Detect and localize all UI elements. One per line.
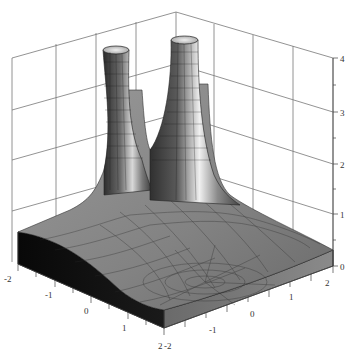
left-tick-label: -1 — [45, 290, 53, 300]
left-tick-label: 1 — [122, 323, 127, 333]
right-tick-label: 1 — [289, 292, 294, 302]
right-tick-label: -2 — [164, 341, 172, 351]
right-tick-label: -1 — [209, 325, 217, 335]
z-tick-label: 1 — [340, 210, 345, 220]
left-tick-label: -2 — [4, 274, 12, 284]
left-tick-label: 0 — [84, 306, 89, 316]
right-tick-label: 2 — [325, 278, 330, 288]
z-tick-label: 3 — [340, 108, 345, 118]
right-tick-label: 0 — [250, 309, 255, 319]
peak-right — [150, 36, 240, 205]
z-tick-label: 0 — [340, 262, 345, 272]
left-tick-label: 2 — [158, 341, 163, 351]
surface-plot: -2 -1 0 1 2 -2 -1 0 1 2 0 1 2 3 4 — [0, 0, 352, 360]
z-axis-ticks — [333, 58, 338, 266]
z-tick-label: 4 — [340, 54, 345, 64]
z-tick-label: 2 — [340, 160, 345, 170]
